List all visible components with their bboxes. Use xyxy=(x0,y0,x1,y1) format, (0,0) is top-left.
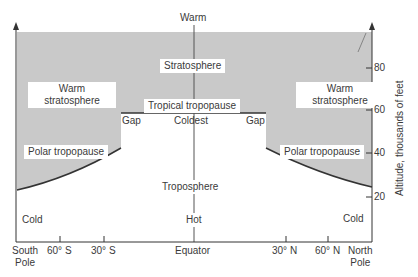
gap-left-label: Gap xyxy=(122,115,141,127)
polar-tropopause-right-label: Polar tropopause xyxy=(280,145,364,159)
polar-tropopause-left-label: Polar tropopause xyxy=(24,145,108,159)
60s-label: 60° S xyxy=(47,245,72,257)
warm-stratosphere-left-line1: Warm xyxy=(32,83,112,95)
equator-label: Equator xyxy=(175,245,210,257)
warm-stratosphere-left: Warm stratosphere xyxy=(28,82,116,108)
north-pole-label: North Pole xyxy=(348,245,372,269)
south-pole-line1: South xyxy=(12,245,38,257)
tick-40: 40 xyxy=(374,147,385,158)
30n-label: 30° N xyxy=(272,245,297,257)
south-pole-line2: Pole xyxy=(12,257,38,269)
warm-stratosphere-right-line2: stratosphere xyxy=(300,95,380,107)
tick-20: 20 xyxy=(374,191,385,202)
warm-stratosphere-right: Warm stratosphere xyxy=(296,82,384,108)
hot-label: Hot xyxy=(182,213,206,227)
left-axis-arrow-icon xyxy=(13,22,19,30)
south-pole-label: South Pole xyxy=(12,245,38,269)
warm-label: Warm xyxy=(176,11,210,25)
north-pole-line1: North xyxy=(348,245,372,257)
north-pole-line2: Pole xyxy=(348,257,372,269)
coldest-label: Coldest xyxy=(174,115,208,127)
tick-60: 60 xyxy=(374,104,385,115)
60n-label: 60° N xyxy=(315,245,340,257)
tick-80: 80 xyxy=(374,62,385,73)
tropical-tropopause-label: Tropical tropopause xyxy=(144,99,240,113)
cold-left-label: Cold xyxy=(22,214,43,226)
troposphere-label: Troposphere xyxy=(158,180,222,194)
gap-right-label: Gap xyxy=(246,115,265,127)
30s-label: 30° S xyxy=(91,245,116,257)
warm-stratosphere-right-line1: Warm xyxy=(300,83,380,95)
diagram-canvas xyxy=(0,0,418,277)
right-axis-arrow-icon xyxy=(369,22,375,30)
cold-right-label: Cold xyxy=(343,213,364,225)
y-axis-label: Altitude, thousands of feet xyxy=(394,80,405,196)
warm-stratosphere-left-line2: stratosphere xyxy=(32,95,112,107)
stratosphere-label: Stratosphere xyxy=(160,59,225,73)
